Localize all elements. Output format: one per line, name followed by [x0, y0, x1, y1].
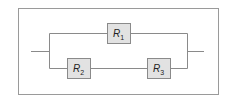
resistor-r1: R1 — [108, 24, 131, 44]
resistor-r2: R2 — [68, 59, 91, 79]
circuit-diagram: R1 R2 R3 — [0, 0, 228, 97]
resistor-r3: R3 — [148, 59, 171, 79]
